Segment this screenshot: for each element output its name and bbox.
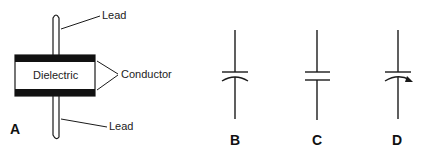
lead-bottom-label: Lead <box>109 120 133 132</box>
lead-bottom-leader <box>61 119 107 127</box>
figure-label-b: B <box>230 132 240 148</box>
lead-top-leader <box>61 16 100 29</box>
capacitor-symbol-d <box>385 30 413 119</box>
lead-top-label: Lead <box>102 9 126 21</box>
dielectric-label: Dielectric <box>33 69 78 81</box>
capacitor-symbol-c <box>305 30 330 120</box>
figure-label-c: C <box>312 132 322 148</box>
capacitor-symbol-b <box>222 30 248 119</box>
bottom-lead <box>53 96 59 139</box>
conductor-label: Conductor <box>121 68 172 80</box>
top-conductor-plate <box>15 55 95 62</box>
figure-label-d: D <box>392 132 402 148</box>
conductor-leader-top <box>97 61 118 74</box>
top-lead <box>53 15 59 55</box>
figure-label-a: A <box>10 121 20 137</box>
arrow-icon <box>405 76 413 82</box>
bottom-conductor-plate <box>15 89 95 96</box>
conductor-leader-bottom <box>97 75 118 90</box>
